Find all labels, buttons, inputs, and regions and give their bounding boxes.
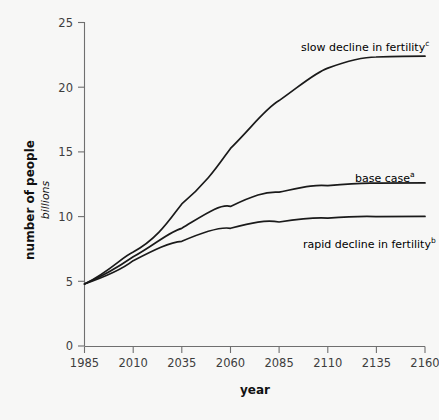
x-tick-label-1985: 1985 <box>70 356 99 370</box>
annotation-base-case-superscript: a <box>410 170 415 179</box>
y-tick-label-0: 0 <box>66 339 73 353</box>
annotation-rapid-decline: rapid decline in fertilityb <box>303 236 436 251</box>
x-tick-label-2085: 2085 <box>264 356 293 370</box>
annotation-base-case-text: base case <box>355 172 410 185</box>
x-tick-label-2035: 2035 <box>167 356 196 370</box>
x-tick-label-2110: 2110 <box>313 356 342 370</box>
annotation-base-case: base casea <box>355 170 415 185</box>
chart-canvas: 25 20 15 10 5 0 1985 2010 2035 2060 2085… <box>0 0 439 420</box>
annotation-slow-decline-text: slow decline in fertility <box>301 41 425 54</box>
y-axis-subtitle: billions <box>39 180 52 219</box>
x-tick-label-2010: 2010 <box>119 356 148 370</box>
annotation-slow-decline-superscript: c <box>425 39 429 48</box>
annotation-slow-decline: slow decline in fertilityc <box>301 39 429 54</box>
y-tick-label-5: 5 <box>66 275 73 289</box>
x-tick-label-2060: 2060 <box>216 356 245 370</box>
x-tick-label-2160: 2160 <box>410 356 439 370</box>
y-axis-title: number of people <box>23 140 37 260</box>
curve-base-case <box>85 183 426 284</box>
annotation-rapid-decline-text: rapid decline in fertility <box>303 238 431 251</box>
y-tick-label-20: 20 <box>58 81 73 95</box>
y-axis: 25 20 15 10 5 0 <box>58 16 84 353</box>
annotation-rapid-decline-superscript: b <box>431 236 436 245</box>
population-projection-chart: 25 20 15 10 5 0 1985 2010 2035 2060 2085… <box>0 0 439 420</box>
x-axis-title: year <box>240 383 270 397</box>
x-tick-label-2135: 2135 <box>362 356 391 370</box>
y-tick-label-10: 10 <box>58 210 73 224</box>
y-tick-label-15: 15 <box>58 145 73 159</box>
y-tick-label-25: 25 <box>58 16 73 30</box>
x-axis: 1985 2010 2035 2060 2085 2110 2135 2160 <box>70 347 439 371</box>
